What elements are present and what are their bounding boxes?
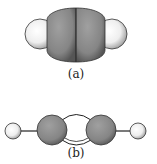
molecule-diagram [0, 0, 157, 164]
pi-bond-bottom [62, 140, 91, 145]
carbon-atom-left [37, 115, 67, 145]
carbon-atom-right [76, 8, 105, 62]
carbon-atom-right [86, 115, 116, 145]
hydrogen-atom-right [130, 123, 146, 139]
carbon-atom-left-shape [47, 8, 76, 62]
figure-label-b: (b) [61, 146, 91, 160]
pi-bond-bottom-inner [63, 137, 90, 142]
hydrogen-atom-left [5, 123, 21, 139]
space-filling-model [25, 8, 127, 62]
figure-label-a: (a) [61, 67, 91, 81]
ball-and-stick-model [5, 115, 146, 146]
pi-bond-top [62, 115, 91, 121]
